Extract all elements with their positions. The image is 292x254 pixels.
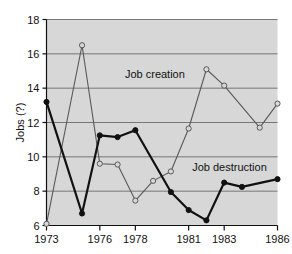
data-point-job-creation [133, 198, 138, 203]
data-point-job-creation [79, 43, 84, 48]
chart-figure: 681012141618197319761978198119831986Jobs… [0, 0, 292, 254]
data-point-job-creation [257, 125, 262, 130]
y-axis-tick-label: 16 [27, 48, 39, 60]
data-point-job-destruction [186, 207, 191, 212]
x-axis-tick-label: 1973 [34, 233, 58, 245]
y-axis-tick-label: 8 [33, 185, 39, 197]
data-point-job-destruction [222, 180, 227, 185]
data-point-job-creation [204, 67, 209, 72]
y-axis-tick-label: 12 [27, 117, 39, 129]
x-axis-tick-label: 1978 [123, 233, 147, 245]
y-axis-tick-label: 10 [27, 151, 39, 163]
data-point-job-creation [115, 162, 120, 167]
data-point-job-creation [151, 178, 156, 183]
data-point-job-creation [97, 161, 102, 166]
data-point-job-creation [44, 221, 49, 226]
jobs-line-chart: 681012141618197319761978198119831986Jobs… [0, 0, 292, 254]
x-axis-tick-label: 1983 [212, 233, 236, 245]
data-point-job-destruction [115, 134, 120, 139]
data-point-job-destruction [204, 218, 209, 223]
data-point-job-destruction [168, 189, 173, 194]
data-point-job-creation [186, 126, 191, 131]
y-axis-tick-label: 18 [27, 14, 39, 26]
data-point-job-destruction [239, 184, 244, 189]
x-axis-tick-label: 1986 [265, 233, 289, 245]
data-point-job-creation [275, 101, 280, 106]
data-point-job-creation [222, 83, 227, 88]
y-axis-tick-label: 6 [33, 220, 39, 232]
data-point-job-destruction [133, 128, 138, 133]
data-point-job-destruction [44, 99, 49, 104]
data-point-job-destruction [275, 177, 280, 182]
y-axis-tick-label: 14 [27, 82, 39, 94]
y-axis-title: Jobs (?) [14, 103, 26, 143]
series-annotation-job-creation: Job creation [125, 68, 185, 80]
series-annotation-job-destruction: Job destruction [192, 161, 267, 173]
data-point-job-creation [168, 169, 173, 174]
x-axis-tick-label: 1976 [88, 233, 112, 245]
x-axis-tick-label: 1981 [176, 233, 200, 245]
data-point-job-destruction [97, 133, 102, 138]
data-point-job-destruction [79, 211, 84, 216]
